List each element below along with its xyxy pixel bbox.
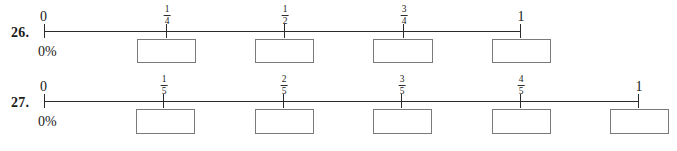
- start-label-26: 0: [40, 10, 47, 24]
- fraction-numerator: 2: [281, 75, 288, 85]
- answer-box-27-3[interactable]: [373, 109, 432, 134]
- answer-box-26-4[interactable]: [492, 39, 551, 63]
- tick-label-27-1: 1 5: [161, 75, 168, 96]
- fraction-numerator: 1: [161, 75, 168, 85]
- answer-box-26-2[interactable]: [255, 39, 314, 63]
- fraction-numerator: 1: [164, 5, 171, 15]
- tick-label-26-1: 1 4: [164, 5, 171, 26]
- tick-27-5: [638, 94, 639, 108]
- tick-label-27-2: 2 5: [281, 75, 288, 96]
- start-label-27: 0: [40, 80, 47, 94]
- fraction-three-fifths: 3 5: [399, 75, 406, 96]
- problem-27: 27. 0 0% 1 5 2 5 3 5: [0, 70, 677, 151]
- tick-label-26-2: 1 2: [282, 5, 289, 26]
- fraction-one-fourth: 1 4: [164, 5, 171, 26]
- fraction-denominator: 5: [281, 85, 288, 96]
- tick-label-27-4: 4 5: [518, 75, 525, 96]
- tick-label-26-3: 3 4: [401, 5, 408, 26]
- fraction-one-fifth: 1 5: [161, 75, 168, 96]
- answer-box-27-4[interactable]: [492, 109, 551, 134]
- fraction-denominator: 5: [161, 85, 168, 96]
- fraction-three-fourths: 3 4: [401, 5, 408, 26]
- answer-box-27-5[interactable]: [610, 109, 669, 134]
- tick-26-4: [520, 24, 521, 38]
- tick-label-27-5: 1: [636, 80, 643, 94]
- answer-box-26-3[interactable]: [373, 39, 433, 63]
- fraction-four-fifths: 4 5: [518, 75, 525, 96]
- tick-label-26-4: 1: [518, 10, 525, 24]
- fraction-denominator: 5: [518, 85, 525, 96]
- fraction-denominator: 4: [401, 15, 408, 26]
- fraction-denominator: 4: [164, 15, 171, 26]
- fraction-numerator: 4: [518, 75, 525, 85]
- problem-number-27: 27.: [11, 95, 29, 111]
- problem-26: 26. 0 0% 1 4 1 2 3 4: [0, 0, 677, 72]
- fraction-denominator: 2: [282, 15, 289, 26]
- fraction-numerator: 1: [282, 5, 289, 15]
- fraction-numerator: 3: [399, 75, 406, 85]
- answer-box-26-1[interactable]: [137, 39, 196, 63]
- tick-26-0: [44, 24, 45, 38]
- problem-number-26: 26.: [11, 25, 29, 41]
- number-line-27: [44, 101, 638, 102]
- percent-label-27: 0%: [38, 115, 57, 129]
- fraction-two-fifths: 2 5: [281, 75, 288, 96]
- worksheet-page: 26. 0 0% 1 4 1 2 3 4: [0, 0, 677, 151]
- tick-27-0: [44, 94, 45, 108]
- fraction-denominator: 5: [399, 85, 406, 96]
- fraction-numerator: 3: [401, 5, 408, 15]
- answer-box-27-2[interactable]: [255, 109, 314, 134]
- fraction-one-half: 1 2: [282, 5, 289, 26]
- tick-label-27-3: 3 5: [399, 75, 406, 96]
- percent-label-26: 0%: [38, 45, 57, 59]
- answer-box-27-1[interactable]: [136, 109, 195, 134]
- number-line-26: [44, 31, 521, 32]
